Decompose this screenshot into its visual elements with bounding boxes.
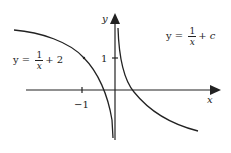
eq-suffix: + 2 <box>45 54 63 65</box>
eq-prefix: y = <box>166 30 186 41</box>
fraction: 1x <box>35 50 43 71</box>
right-curve-equation: y = 1x+ c <box>166 26 215 47</box>
point-marker <box>83 57 85 59</box>
denominator: x <box>188 37 196 47</box>
eq-suffix: + c <box>198 30 215 41</box>
y-axis-label: y <box>102 14 108 24</box>
eq-prefix: y = <box>13 54 33 65</box>
graph-canvas <box>0 0 231 153</box>
curve-left <box>14 30 113 138</box>
numerator: 1 <box>188 26 196 37</box>
y-axis-arrow-icon <box>110 13 120 24</box>
x-tick-label: −1 <box>74 100 89 110</box>
fraction: 1x <box>188 26 196 47</box>
x-axis-label: x <box>207 95 213 105</box>
numerator: 1 <box>35 50 43 61</box>
denominator: x <box>35 61 43 71</box>
y-tick-label: 1 <box>101 54 107 64</box>
left-curve-equation: y = 1x+ 2 <box>13 50 63 71</box>
